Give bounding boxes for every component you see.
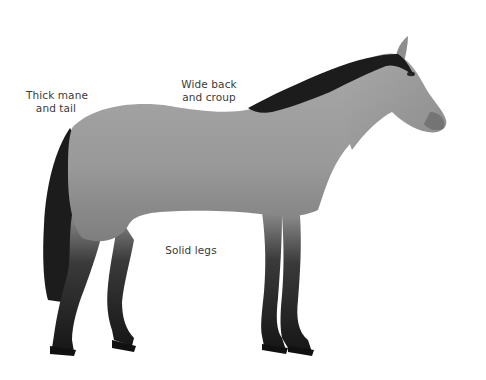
label-line: Solid legs — [163, 244, 219, 257]
label-line: and tail — [26, 102, 86, 115]
label-line: Thick mane — [26, 89, 86, 102]
label-line: and croup — [178, 91, 240, 104]
label-line: Wide back — [178, 78, 240, 91]
foreleg-far — [281, 215, 313, 352]
label-mane-and-tail: Thick mane and tail — [26, 89, 86, 115]
horse-illustration — [0, 0, 486, 380]
horse-diagram: Thick mane and tail Wide back and croup … — [0, 0, 486, 380]
label-wide-back-and-croup: Wide back and croup — [178, 78, 240, 104]
label-solid-legs: Solid legs — [163, 244, 219, 257]
